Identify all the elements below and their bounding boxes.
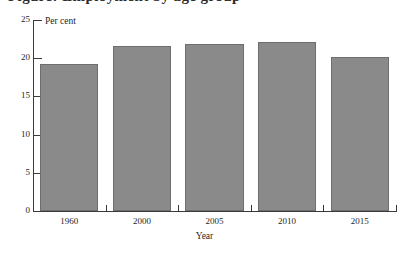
- x-axis-tick-label: 2010: [251, 216, 324, 226]
- plot-area: [33, 20, 396, 211]
- bar: [40, 64, 98, 211]
- y-axis-tick-label: 0: [8, 205, 30, 215]
- bar: [331, 57, 389, 211]
- y-axis-tick-label: 5: [8, 167, 30, 177]
- x-axis-tick-label: 2015: [323, 216, 396, 226]
- y-axis-tick: [34, 211, 42, 212]
- y-axis-tick-label: 10: [8, 129, 30, 139]
- bar: [113, 46, 171, 211]
- y-axis-tick-label: 20: [8, 52, 30, 62]
- bar-chart-figure: Figure: Employment by age group Per cent…: [0, 0, 409, 255]
- x-axis-tick: [396, 205, 397, 211]
- bar: [185, 44, 243, 211]
- x-axis-spine: [33, 211, 397, 212]
- x-axis-tick-label: 2005: [178, 216, 251, 226]
- clipped-figure-title: Figure: Employment by age group: [0, 0, 409, 7]
- x-axis-tick-label: 2000: [106, 216, 179, 226]
- y-axis-tick-label: 25: [8, 14, 30, 24]
- x-axis-tick-label: 1960: [33, 216, 106, 226]
- x-axis-title: Year: [0, 231, 409, 241]
- y-axis-tick-label: 15: [8, 90, 30, 100]
- clipped-figure-title-text: Figure: Employment by age group: [8, 0, 241, 5]
- bar: [258, 42, 316, 211]
